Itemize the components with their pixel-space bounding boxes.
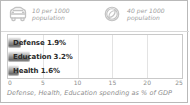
chart-area: Defense 1.9%Education 3.2%Health 1.6% — [7, 34, 183, 79]
x-tick-label: 25 — [175, 79, 183, 86]
legend-item-phones: 40 per 1000 population — [102, 5, 165, 23]
x-tick-label: 0 — [8, 79, 12, 86]
bar-row[interactable]: Defense 1.9% — [8, 37, 182, 48]
bar-row[interactable]: Education 3.2% — [8, 51, 182, 62]
bar-chart-plot: Defense 1.9%Education 3.2%Health 1.6% — [7, 34, 183, 79]
x-axis: 0510152025 — [7, 79, 183, 88]
legend-cars-line2: population — [32, 14, 70, 22]
x-tick-label: 20 — [143, 79, 151, 86]
legend-label-cars: 10 per 1000 population — [32, 7, 70, 22]
circle-slash-icon — [102, 5, 124, 23]
car-icon — [7, 5, 29, 23]
bar-label-education: Education 3.2% — [13, 53, 73, 61]
x-tick-label: 5 — [41, 79, 45, 86]
x-tick-label: 15 — [109, 79, 117, 86]
legend-label-phones: 40 per 1000 population — [127, 7, 165, 22]
legend-item-cars: 10 per 1000 population — [7, 5, 70, 23]
infographic-card: 10 per 1000 population 40 per 1000 popul… — [0, 0, 188, 103]
legend-cars-line1: 10 per 1000 — [32, 7, 70, 15]
bar-label-health: Health 1.6% — [13, 67, 60, 75]
legend-phones-line1: 40 per 1000 — [127, 7, 165, 15]
bar-row[interactable]: Health 1.6% — [8, 65, 182, 76]
legend-phones-line2: population — [127, 14, 165, 22]
legend-header: 10 per 1000 population 40 per 1000 popul… — [1, 1, 189, 32]
chart-caption: Defense, Health, Education spending as %… — [7, 89, 185, 97]
x-tick-label: 10 — [74, 79, 82, 86]
bar-label-defense: Defense 1.9% — [13, 39, 66, 47]
